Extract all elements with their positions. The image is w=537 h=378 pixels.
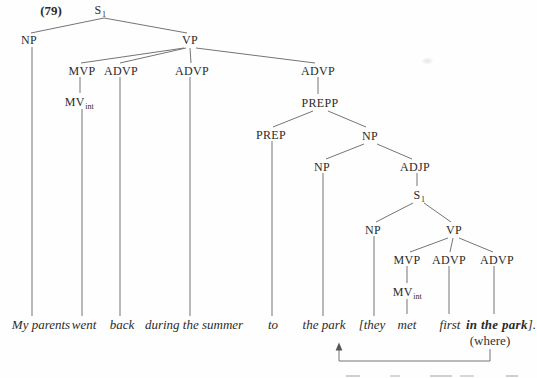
tree-node-mv-int-went: MVint	[65, 96, 93, 110]
terminal-met: met	[398, 318, 417, 332]
tree-node-np-the-park: NP	[314, 161, 330, 173]
terminal-they: [they	[359, 318, 386, 332]
tree-node-advp-in-the-park: ADVP	[480, 254, 514, 266]
terminal-during-the-summer: during the summer	[145, 318, 243, 332]
edge-s1-np	[31, 18, 104, 33]
cutoff-caption-fragment	[338, 374, 533, 378]
example-number: (79)	[40, 4, 62, 17]
edge-vp2-advp1	[450, 238, 453, 252]
terminal-to: to	[268, 318, 278, 332]
tree-node-advp-back: ADVP	[104, 65, 138, 77]
tree-node-prep: PREP	[256, 129, 286, 141]
where-annotation: (where)	[470, 334, 510, 348]
movement-arrow-head-icon	[336, 343, 343, 351]
tree-node-adjp: ADJP	[400, 161, 430, 173]
syntax-tree-figure: (79) S1 NP VP MVP ADVP ADVP ADVP MVint P…	[0, 0, 537, 378]
tree-node-np-they: NP	[365, 224, 381, 236]
edge-prepp-np	[328, 111, 366, 127]
terminal-went: went	[72, 318, 97, 332]
tree-node-vp-main: VP	[182, 34, 198, 46]
edge-vp-advp3	[196, 48, 315, 63]
movement-arrow-line	[339, 346, 490, 361]
tree-node-s1-embedded: S1	[414, 189, 425, 203]
terminal-in-the-park: in the park].	[466, 318, 536, 332]
tree-node-np-subject: NP	[21, 34, 37, 46]
edge-np-np2	[326, 144, 364, 159]
tree-node-prepp: PREPP	[302, 97, 339, 109]
tree-node-advp-during: ADVP	[175, 65, 209, 77]
tree-node-advp-pp: ADVP	[301, 65, 335, 77]
terminal-back: back	[110, 318, 135, 332]
tree-node-s1-root: S1	[95, 4, 106, 18]
terminal-first: first	[440, 318, 461, 332]
edge-prepp-prep	[273, 111, 313, 127]
edge-s1-vp	[104, 18, 187, 33]
tree-node-advp-first: ADVP	[432, 254, 466, 266]
edge-vp2-mvp	[410, 238, 448, 252]
edge-vp-advp2	[190, 48, 191, 63]
tree-node-vp-embedded: VP	[446, 224, 462, 236]
edge-vp-mvp	[81, 48, 184, 63]
tree-node-mv-int-met: MVint	[393, 286, 421, 300]
terminal-the-park: the park	[303, 318, 346, 332]
tree-node-np-object: NP	[362, 130, 378, 142]
edge-np-adjp	[377, 144, 412, 159]
edge-s1b-vp	[424, 203, 451, 222]
terminal-my-parents: My parents	[12, 318, 70, 332]
scan-smudge	[421, 57, 434, 65]
edge-vp2-advp2	[459, 238, 493, 252]
edge-s1b-np	[376, 203, 413, 222]
tree-node-mvp-main: MVP	[69, 65, 96, 77]
tree-node-mvp-embedded: MVP	[394, 254, 421, 266]
